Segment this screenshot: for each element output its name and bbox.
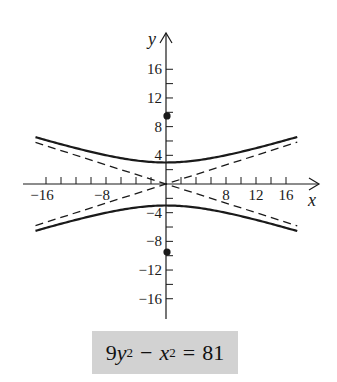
equation-rhs: 81 [202, 340, 224, 366]
y-tick-label: 12 [147, 90, 162, 106]
x-tick-label: 16 [279, 187, 295, 203]
y-tick-label: 4 [155, 147, 163, 163]
y-tick-label: −12 [139, 262, 162, 278]
focus-point [163, 248, 170, 255]
x-axis-label: x [307, 190, 316, 210]
x-tick-label: −8 [94, 187, 110, 203]
hyperbola-graph: x y −16−881216161284−4−8−12−16 [0, 0, 337, 330]
equation-var-x: x [160, 340, 170, 366]
equation-var-y: y [117, 340, 127, 366]
y-tick-label: −8 [146, 233, 162, 249]
y-tick-label: 8 [155, 119, 163, 135]
equation-equals: = [183, 340, 195, 366]
x-tick-label: 8 [222, 187, 230, 203]
y-axis-label: y [146, 29, 156, 49]
y-tick-label: 16 [147, 61, 163, 77]
equation-minus: − [140, 340, 152, 366]
focus-point [163, 112, 170, 119]
x-tick-label: 12 [249, 187, 264, 203]
equation-coefficient: 9 [106, 340, 117, 366]
equation-box: 9y2 − x2 = 81 [92, 331, 238, 374]
y-tick-label: −16 [139, 291, 163, 307]
x-tick-label: −16 [30, 187, 54, 203]
